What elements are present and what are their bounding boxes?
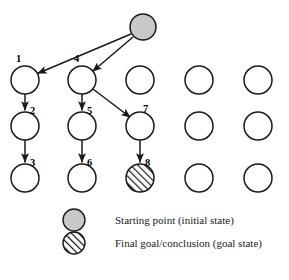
legend-swatch-goal-icon xyxy=(63,232,85,254)
node-label-3: 3 xyxy=(30,157,35,168)
legend-swatch-start-icon xyxy=(63,209,85,231)
node-label-4: 4 xyxy=(74,53,80,64)
node-label-5: 5 xyxy=(87,105,92,116)
node-label-6: 6 xyxy=(87,157,92,168)
edge-group xyxy=(25,34,140,163)
edge-n4-to-n7 xyxy=(93,89,131,118)
legend-label-start: Starting point (initial state) xyxy=(115,214,234,227)
node-4[interactable] xyxy=(68,66,96,94)
node-6[interactable] xyxy=(68,164,96,192)
node-7[interactable] xyxy=(126,112,154,140)
node-3[interactable] xyxy=(11,164,39,192)
node-5[interactable] xyxy=(68,112,96,140)
legend: Starting point (initial state) Final goa… xyxy=(63,209,262,254)
node-r2c3[interactable] xyxy=(185,164,213,192)
node-r1c4[interactable] xyxy=(244,112,272,140)
node-r1c3[interactable] xyxy=(185,112,213,140)
node-r0c3[interactable] xyxy=(185,66,213,94)
node-8-goal[interactable] xyxy=(126,164,154,192)
node-label-1: 1 xyxy=(16,53,21,64)
node-2[interactable] xyxy=(11,112,39,140)
legend-label-goal: Final goal/conclusion (goal state) xyxy=(115,237,262,250)
node-r2c4[interactable] xyxy=(244,164,272,192)
figure-container: 1 4 2 5 7 3 6 8 Starting point (initial … xyxy=(0,0,289,280)
node-label-2: 2 xyxy=(30,105,35,116)
node-group xyxy=(11,14,272,192)
node-r0c2[interactable] xyxy=(126,66,154,94)
search-tree-diagram: 1 4 2 5 7 3 6 8 Starting point (initial … xyxy=(0,0,289,280)
node-label-7: 7 xyxy=(143,103,148,114)
node-label-8: 8 xyxy=(145,157,150,168)
node-start[interactable] xyxy=(130,14,156,40)
node-r0c4[interactable] xyxy=(244,66,272,94)
node-1[interactable] xyxy=(11,66,39,94)
